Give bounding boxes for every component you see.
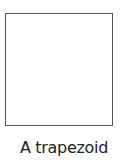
square-shape <box>5 13 113 126</box>
shape-caption: A trapezoid <box>0 138 128 157</box>
